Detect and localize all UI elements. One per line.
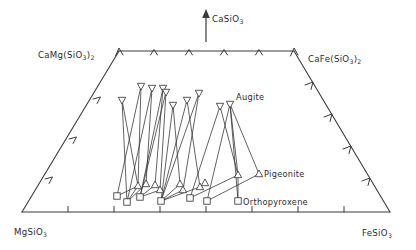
diagram-canvas: CaSiO3 CaMg bbox=[0, 0, 416, 250]
bottom-axis-ticks bbox=[68, 207, 344, 213]
marker-pigeonite bbox=[201, 179, 208, 186]
marker-orthopyroxene bbox=[158, 198, 164, 204]
marker-pigeonite bbox=[151, 181, 158, 188]
quad-frame bbox=[22, 51, 390, 212]
phase-label-augite: Augite bbox=[236, 92, 264, 102]
corner-label-mgsio3: MgSiO3 bbox=[14, 227, 47, 238]
marker-augite bbox=[195, 90, 202, 97]
tie-line-triangle bbox=[117, 86, 141, 196]
marker-orthopyroxene bbox=[137, 194, 143, 200]
marker-orthopyroxene bbox=[235, 198, 241, 204]
top-axis-ticks bbox=[116, 48, 299, 56]
marker-pigeonite bbox=[134, 182, 141, 189]
marker-augite bbox=[183, 97, 190, 104]
corner-label-camg: CaMg(SiO3)2 bbox=[38, 50, 95, 61]
marker-augite bbox=[118, 97, 125, 104]
casio3-apex-arrow bbox=[202, 9, 210, 42]
marker-orthopyroxene bbox=[187, 195, 193, 201]
marker-orthopyroxene bbox=[114, 193, 120, 199]
corner-label-fesio3: FeSiO3 bbox=[362, 228, 392, 239]
marker-augite bbox=[169, 102, 176, 109]
tie-line-triangle bbox=[140, 92, 166, 197]
phase-label-orthopyroxene: Orthopyroxene bbox=[243, 197, 308, 207]
marker-orthopyroxene bbox=[204, 198, 210, 204]
marker-pigeonite bbox=[255, 170, 262, 177]
marker-augite bbox=[216, 103, 223, 110]
tie-line-triangle bbox=[190, 106, 238, 198]
tie-line-triangle bbox=[230, 104, 238, 201]
marker-pigeonite bbox=[176, 180, 183, 187]
left-axis-ticks bbox=[45, 97, 101, 184]
right-axis-ticks bbox=[305, 82, 370, 186]
left-axis bbox=[22, 51, 119, 212]
marker-augite bbox=[148, 85, 155, 92]
phase-label-pigeonite: Pigeonite bbox=[264, 169, 305, 179]
right-axis bbox=[294, 51, 390, 212]
marker-augite bbox=[162, 89, 169, 96]
tie-line-triangle bbox=[140, 88, 163, 197]
apex-label-casio3: CaSiO3 bbox=[212, 14, 244, 25]
marker-orthopyroxene bbox=[124, 199, 130, 205]
pyroxene-quadrilateral-diagram: CaSiO3 CaMg bbox=[0, 0, 416, 250]
corner-label-cafe: CaFe(SiO3)2 bbox=[308, 54, 362, 65]
marker-augite bbox=[226, 101, 233, 108]
marker-augite bbox=[137, 83, 144, 90]
